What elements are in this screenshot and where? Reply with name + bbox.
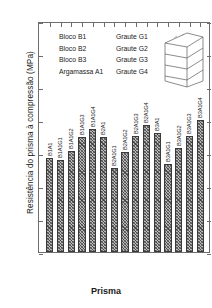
bar: B2A1G2: [121, 152, 128, 252]
bar: B3A1: [154, 133, 161, 252]
legend-bloco-b3: Bloco B3: [59, 54, 116, 66]
bar-label: B1A1G4: [90, 107, 96, 128]
bar: B3A1G4: [197, 120, 204, 252]
bar: B3A1G3: [186, 136, 193, 252]
y-tick: [39, 254, 43, 255]
bar-label: B2A1: [101, 122, 107, 135]
chart-figure: Resistência do prisma à compressão (MPa)…: [0, 0, 212, 308]
bar: B2A1G4: [143, 125, 150, 252]
bar: B3A1G1: [164, 164, 171, 252]
y-tick-right: [207, 254, 211, 255]
bar-label: B1A1G2: [69, 128, 75, 149]
bar-label: B3A1: [155, 118, 161, 131]
y-axis-label: Resistência do prisma à compressão (MPa): [26, 23, 35, 243]
bar-label: B3A1G2: [176, 126, 182, 147]
legend-bloco-b1: Bloco B1: [59, 31, 116, 43]
legend-bloco-b2: Bloco B2: [59, 43, 116, 55]
bar-label: B2A1G3: [133, 113, 139, 134]
bar: B1A1G4: [89, 129, 96, 252]
x-axis-label: Prisma: [0, 286, 212, 296]
prism-illustration-icon: [161, 29, 207, 91]
bar-label: B2A1G4: [144, 103, 150, 124]
bar-label: B2A1G2: [122, 129, 128, 150]
bar: B3A1G2: [175, 148, 182, 252]
bar-label: B1A1G3: [79, 114, 85, 135]
bar-label: B1A1G1: [58, 137, 64, 158]
bar: B1A1G1: [57, 160, 64, 252]
bar: B2A1: [100, 137, 107, 252]
bar-label: B2A1G1: [112, 145, 118, 166]
bar-label: B1A1: [47, 142, 53, 155]
bar-label: B3A1G4: [198, 97, 204, 118]
bar: B2A1G3: [132, 136, 139, 252]
bar: B1A1G3: [78, 137, 85, 253]
bar: B1A1: [46, 158, 53, 252]
legend-argamassa-a1: Argamassa A1: [59, 66, 116, 78]
bar: B1A1G2: [68, 151, 75, 252]
plot-area: 05101520253035 B1A1B1A1G1B1A1G2B1A1G3B1A…: [38, 22, 210, 253]
bar: B2A1G1: [111, 168, 118, 252]
bar-label: B3A1G3: [187, 113, 193, 134]
bar-label: B3A1G1: [165, 142, 171, 163]
